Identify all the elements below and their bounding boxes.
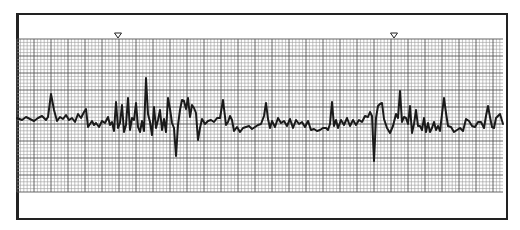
event-markers [115, 33, 398, 38]
down-triangle-marker-icon [391, 33, 398, 38]
rhythm-strip-chart [0, 0, 520, 230]
grid-minor-lines [17, 39, 503, 192]
down-triangle-marker-icon [115, 33, 122, 38]
grid-major-lines [17, 39, 503, 192]
